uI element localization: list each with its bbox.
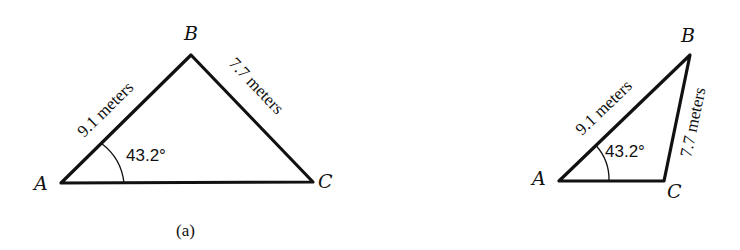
triangle-a-side-ab-label: 9.1 meters	[73, 78, 137, 141]
triangle-b-angle-label: 43.2°	[605, 142, 645, 161]
triangle-diagrams: A B C 9.1 meters 7.7 meters 43.2° (a) A …	[0, 0, 740, 250]
triangle-b-vertex-a: A	[530, 167, 546, 189]
triangle-b-vertex-c: C	[667, 180, 682, 202]
triangle-a-vertex-c: C	[318, 170, 333, 192]
figure-a-caption: (a)	[176, 221, 195, 240]
triangle-b-vertex-b: B	[680, 24, 695, 46]
triangle-a-angle-label: 43.2°	[126, 146, 166, 165]
triangle-a-vertex-a: A	[32, 172, 48, 194]
triangle-a-side-bc-label: 7.7 meters	[225, 54, 288, 118]
triangle-b: A B C 9.1 meters 7.7 meters 43.2°	[530, 24, 710, 202]
triangle-a: A B C 9.1 meters 7.7 meters 43.2° (a)	[32, 22, 333, 240]
triangle-a-angle-arc	[102, 144, 125, 184]
triangle-a-vertex-b: B	[183, 22, 198, 44]
triangle-b-side-ab-label: 9.1 meters	[572, 76, 636, 139]
